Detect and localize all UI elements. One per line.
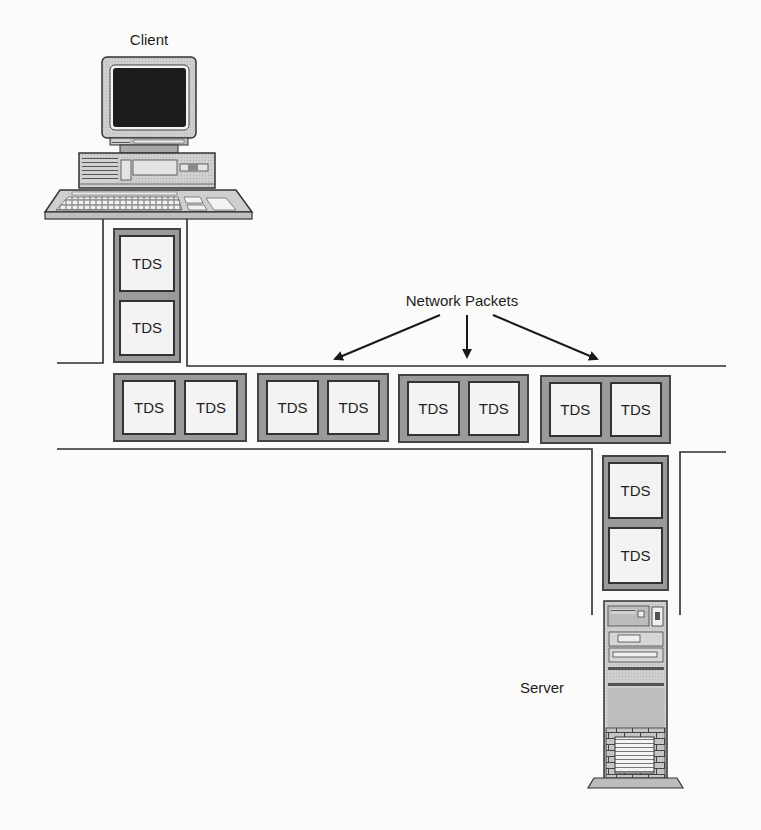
tds-segment: TDS bbox=[608, 462, 663, 519]
tds-segment: TDS bbox=[266, 380, 319, 435]
tds-segment: TDS bbox=[468, 381, 521, 436]
packet-pointer-arrows bbox=[335, 315, 597, 359]
tower-server-icon bbox=[588, 601, 683, 788]
tds-segment: TDS bbox=[119, 300, 175, 357]
client-channel-packet: TDS TDS bbox=[113, 228, 181, 363]
tds-segment: TDS bbox=[610, 382, 663, 437]
arrow-right-icon bbox=[493, 315, 597, 359]
network-packet-1: TDS TDS bbox=[113, 373, 247, 442]
client-label: Client bbox=[119, 31, 179, 49]
desktop-computer-icon bbox=[45, 57, 252, 219]
tds-segment: TDS bbox=[608, 527, 663, 584]
tds-network-diagram: Client Network Packets Server TDS TDS TD… bbox=[0, 0, 761, 830]
network-packet-4: TDS TDS bbox=[540, 375, 671, 444]
tds-segment: TDS bbox=[549, 382, 602, 437]
tds-segment: TDS bbox=[119, 235, 175, 292]
tds-segment: TDS bbox=[122, 380, 176, 435]
server-label: Server bbox=[514, 679, 570, 697]
tds-segment: TDS bbox=[184, 380, 238, 435]
tds-segment: TDS bbox=[327, 380, 380, 435]
network-packet-3: TDS TDS bbox=[398, 374, 529, 443]
network-packets-label: Network Packets bbox=[403, 292, 521, 310]
server-channel-packet: TDS TDS bbox=[602, 455, 669, 591]
arrow-left-icon bbox=[335, 315, 440, 359]
tds-segment: TDS bbox=[407, 381, 460, 436]
network-packet-2: TDS TDS bbox=[257, 373, 389, 442]
